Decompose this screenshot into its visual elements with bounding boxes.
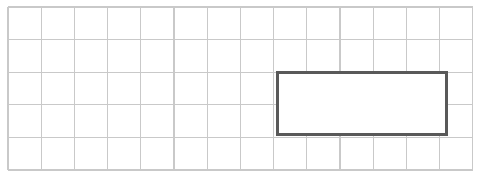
grid-rectangle-figure [0, 0, 484, 177]
rectangle-shape[interactable] [277, 72, 446, 134]
figure-canvas [0, 0, 484, 177]
